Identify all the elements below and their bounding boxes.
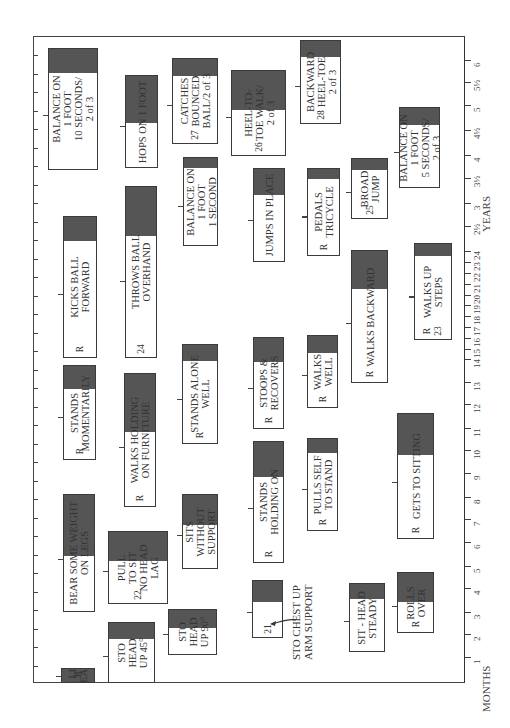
axis-tick [465, 588, 471, 589]
milestone-tag: 26 [253, 142, 264, 152]
axis-tick [465, 178, 471, 179]
age-range-shade [253, 581, 282, 602]
axis-tick [465, 82, 471, 83]
axis-tick [465, 130, 471, 131]
milestone-box-heeltoe: HEEL-TO- TOE WALK/ 2 of 326 [231, 70, 286, 156]
milestone-tag: 24 [136, 344, 147, 354]
axis-tick-label: 6 [472, 62, 482, 67]
milestone-box-pulltosit: PULL TO SIT NO HEAD LAG22 [108, 531, 168, 604]
milestone-box-walksholding: WALKS HOLDING ON FURNITURER [124, 373, 156, 507]
frame-tick [33, 166, 38, 167]
milestone-label: PULL TO SIT NO HEAD LAG [116, 544, 160, 591]
milestone-label: STO HEAD UP 90° [176, 617, 209, 647]
box-marker [120, 126, 125, 127]
milestone-label: BALANCE ON 1 FOOT 1 SECOND [184, 168, 217, 235]
frame-tick [33, 425, 38, 426]
milestone-label: HEEL-TO- TOE WALK/ 2 of 3 [242, 85, 275, 141]
axis-tick-label: 2 [472, 636, 482, 641]
milestone-box-standsalone: STANDS ALONE WELLR [182, 344, 218, 444]
box-marker [103, 656, 108, 657]
box-marker [302, 489, 307, 490]
axis-tick [465, 359, 471, 360]
milestone-label: PEDALS TRICYCLE [313, 186, 335, 237]
frame-tick [33, 351, 38, 352]
axis-tick-label: 8 [472, 499, 482, 504]
milestone-box-standsmom: STANDS MOMENTARILYR [63, 365, 96, 460]
age-range-shade [308, 439, 337, 453]
milestone-label: GETS TO SITTING [410, 433, 421, 519]
axis-tick-label: 9 [472, 475, 482, 480]
axis-tick-label: 3 [472, 614, 482, 619]
milestone-label: WALKS BACKWARD [364, 267, 375, 366]
axis-tick-label: 6 [472, 544, 482, 549]
frame-tick [33, 481, 38, 482]
box-marker [248, 388, 253, 389]
milestone-box-hops: HOPS ON 1 FOOT [125, 75, 158, 168]
milestone-chart: BALANCE ON 1 FOOT 10 SECONDS/ 2 of 3KICK… [0, 0, 510, 728]
milestone-box-catches: CATCHES BOUNCED BALL/2 of 327 [172, 58, 218, 144]
box-marker [346, 323, 351, 324]
frame-tick [33, 314, 38, 315]
age-range-shade [49, 49, 97, 73]
milestone-tag: R [73, 671, 84, 677]
milestone-tag: R [263, 417, 274, 423]
milestone-label: WALKS UP STEPS [422, 265, 444, 317]
axis-tick [465, 566, 471, 567]
frame-tick [33, 610, 38, 611]
box-marker [177, 535, 182, 536]
milestone-tag: R [74, 448, 85, 454]
box-marker [295, 86, 300, 87]
box-marker [302, 216, 307, 217]
box-marker [43, 115, 48, 116]
axis-tick [465, 60, 471, 61]
axis-tick [465, 450, 471, 451]
axis-tick-label: 15 [472, 349, 482, 358]
milestone-box-walkswell: WALKS WELLR [307, 335, 338, 408]
milestone-box-balance1: BALANCE ON 1 FOOT 1 SECOND [183, 157, 218, 246]
age-range-shade [415, 244, 451, 256]
box-marker [248, 220, 253, 221]
axis-tick [465, 105, 471, 106]
box-marker [167, 105, 172, 106]
milestone-box-balance5: BALANCE ON 1 FOOT 5 SECONDS/ 2 of 3 [399, 107, 440, 188]
axis-tick-label: 22 [472, 273, 482, 282]
axis-tick-label: 4½ [472, 128, 482, 139]
axis-tick-label: 23 [472, 262, 482, 271]
axis-tick-label: 7 [472, 521, 482, 526]
axis-tick [465, 473, 471, 474]
frame-tick [33, 111, 38, 112]
axis-tick [465, 203, 471, 204]
axis-tick-label: 24 [472, 251, 482, 260]
axis-tick-label: 20 [472, 295, 482, 304]
box-marker [120, 281, 125, 282]
frame-tick [33, 444, 38, 445]
milestone-box-walksback: WALKS BACKWARDR [351, 250, 388, 383]
frame-tick [33, 629, 38, 630]
axis-tick-label: 10 [472, 450, 482, 459]
milestone-box-backheeltoe: BACKWARD HEEL-TOE 2 of 328 [300, 40, 341, 124]
milestone-box-throws: THROWS BALL OVERHAND24 [125, 186, 157, 358]
axis-tick [465, 404, 471, 405]
axis-tick-label: 16 [472, 338, 482, 347]
milestone-tag: R 23 [422, 326, 444, 336]
box-marker [56, 676, 61, 677]
age-range-shade [184, 158, 217, 168]
milestone-tag: 22 [133, 590, 144, 600]
box-marker [178, 206, 183, 207]
box-marker [103, 571, 108, 572]
box-marker [394, 152, 399, 153]
milestone-label: PULLS SELF TO STAND [312, 455, 334, 514]
axis-tick [465, 316, 471, 317]
axis-tick [465, 327, 471, 328]
milestone-label: STANDS MOMENTARILY [69, 374, 91, 451]
axis-tick [465, 612, 471, 613]
axis-tick [465, 226, 471, 227]
milestone-tag: 27 [190, 130, 201, 140]
milestone-box-pedals: PEDALS TRICYCLER [307, 168, 340, 256]
box-marker [392, 606, 397, 607]
axis-tick-label: 5 [472, 107, 482, 112]
axis-tick-label: 13 [472, 382, 482, 391]
milestone-label: BEAR SOME WEIGHT ON LEGS [68, 501, 90, 605]
axis-tick [465, 542, 471, 543]
axis-tick [465, 519, 471, 520]
